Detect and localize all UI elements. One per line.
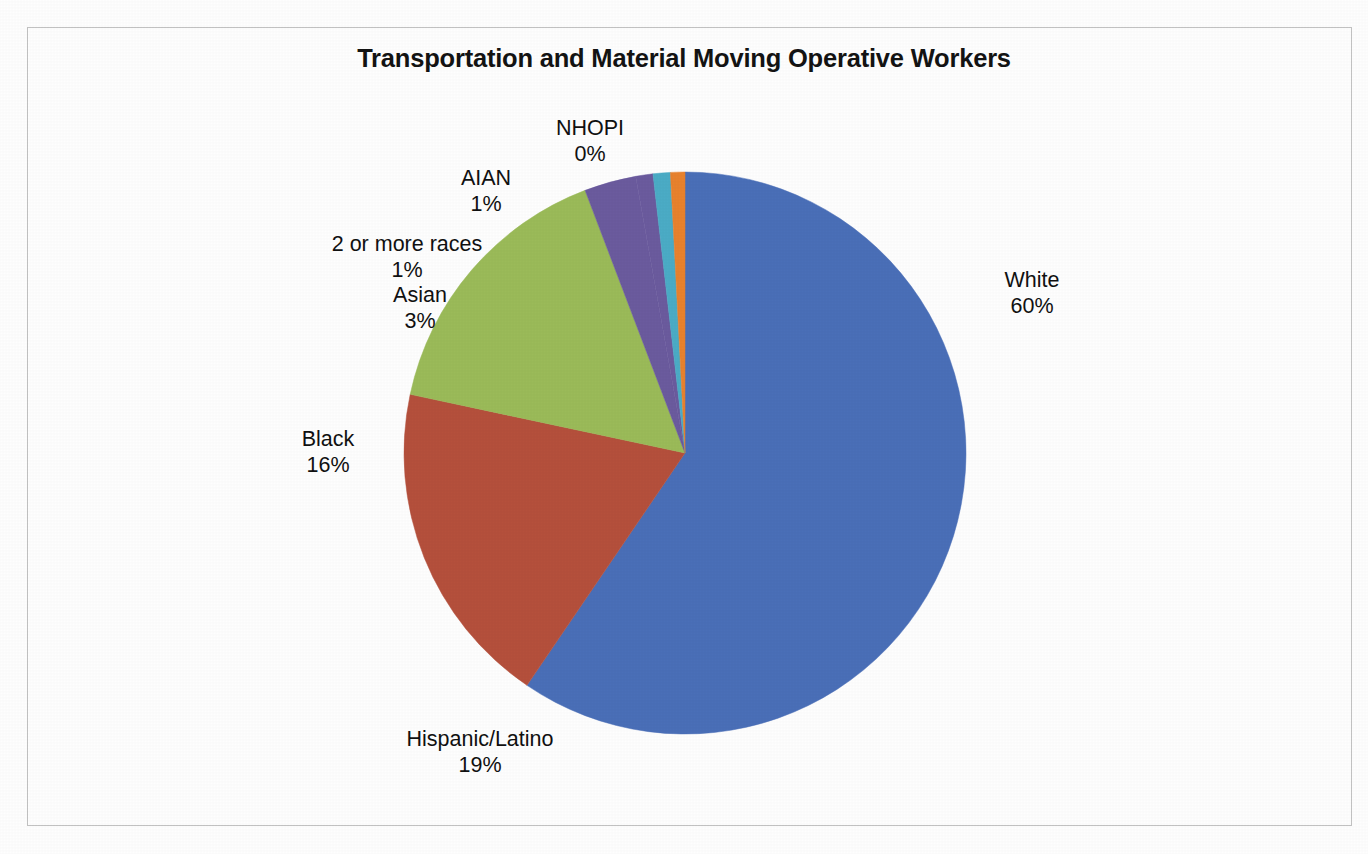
pie-label-aian-name: AIAN	[396, 166, 576, 192]
pie-label-nhopi-name: NHOPI	[500, 116, 680, 142]
pie-label-white-name: White	[942, 268, 1122, 294]
pie-label-asian: Asian 3%	[330, 283, 510, 334]
pie-label-black: Black 16%	[238, 427, 418, 478]
pie-label-two-or-more-races-name: 2 or more races	[278, 232, 536, 258]
pie-label-aian-value: 1%	[396, 192, 576, 218]
pie-label-two-or-more-races: 2 or more races 1%	[278, 232, 536, 283]
chart-border-frame	[27, 27, 1352, 826]
chart-page: Transportation and Material Moving Opera…	[0, 0, 1368, 854]
pie-label-black-value: 16%	[238, 453, 418, 479]
pie-label-asian-value: 3%	[330, 309, 510, 335]
pie-label-nhopi: NHOPI 0%	[500, 116, 680, 167]
pie-label-black-name: Black	[238, 427, 418, 453]
pie-label-nhopi-value: 0%	[500, 142, 680, 168]
pie-label-aian: AIAN 1%	[396, 166, 576, 217]
chart-title: Transportation and Material Moving Opera…	[0, 44, 1368, 73]
pie-label-hispanic-latino-value: 19%	[340, 753, 620, 779]
pie-label-two-or-more-races-value: 1%	[278, 258, 536, 284]
pie-label-white-value: 60%	[942, 294, 1122, 320]
pie-label-asian-name: Asian	[330, 283, 510, 309]
pie-label-hispanic-latino-name: Hispanic/Latino	[340, 727, 620, 753]
pie-label-white: White 60%	[942, 268, 1122, 319]
pie-label-hispanic-latino: Hispanic/Latino 19%	[340, 727, 620, 778]
